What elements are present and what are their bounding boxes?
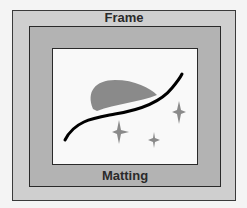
sparkle-icon <box>112 101 186 148</box>
artwork <box>0 0 247 208</box>
